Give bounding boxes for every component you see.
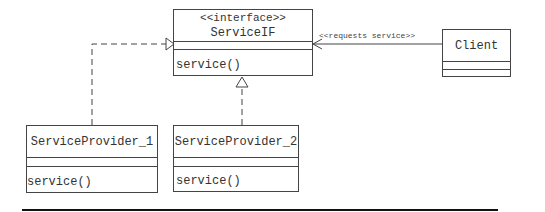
class-name: ServiceIF bbox=[174, 26, 312, 40]
operations-divider bbox=[443, 69, 510, 70]
class-client[interactable]: Client bbox=[442, 29, 511, 77]
operation: service() bbox=[176, 58, 241, 72]
class-service-if[interactable]: <<interface>> ServiceIF service() bbox=[173, 9, 313, 76]
attributes-divider bbox=[443, 61, 510, 62]
operation: service() bbox=[176, 174, 241, 188]
attributes-divider bbox=[174, 157, 298, 158]
attributes-divider bbox=[174, 41, 312, 42]
attributes-divider bbox=[27, 157, 157, 158]
operation: service() bbox=[27, 175, 92, 189]
class-name: Client bbox=[443, 39, 510, 53]
realization-arrowhead-provider-2 bbox=[236, 77, 248, 87]
class-service-provider-2[interactable]: ServiceProvider_2 service() bbox=[173, 125, 299, 192]
class-service-provider-1[interactable]: ServiceProvider_1 service() bbox=[26, 125, 158, 193]
class-name: ServiceProvider_1 bbox=[27, 135, 157, 149]
operations-divider bbox=[27, 166, 157, 167]
dependency-label: <<requests service>> bbox=[319, 31, 415, 40]
class-name: ServiceProvider_2 bbox=[174, 135, 298, 149]
class-stereotype: <<interface>> bbox=[174, 12, 312, 24]
realization-line-provider-1 bbox=[92, 44, 166, 125]
operations-divider bbox=[174, 49, 312, 50]
operations-divider bbox=[174, 166, 298, 167]
